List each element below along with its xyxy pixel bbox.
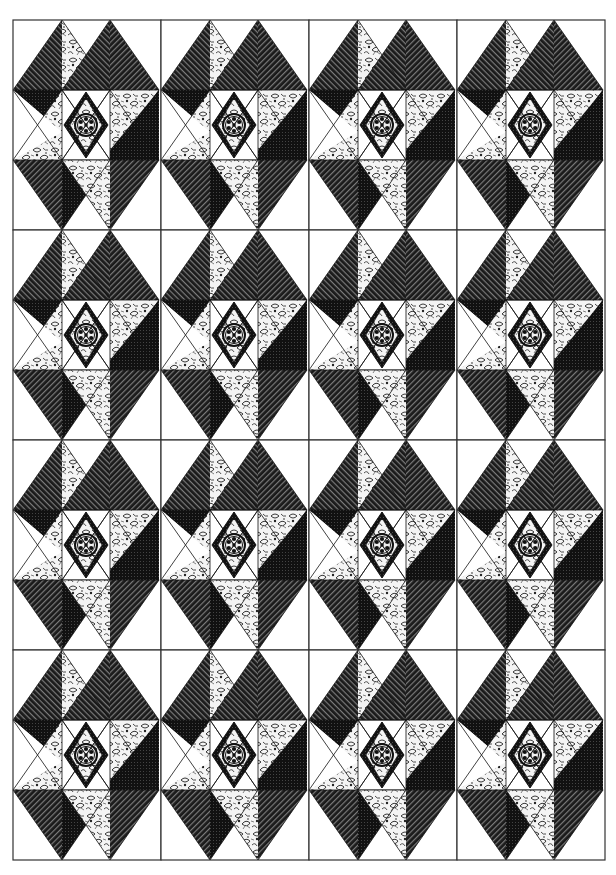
quilt-block [309,440,457,650]
quilt-block [13,650,161,860]
quilt-block [457,440,605,650]
quilt-block [161,230,309,440]
quilt-illustration [0,0,616,875]
quilt-block [457,230,605,440]
quilt-block [309,650,457,860]
quilt-block [457,650,605,860]
quilt-block [161,650,309,860]
quilt-block [309,20,457,230]
quilt-block [13,20,161,230]
quilt-block [161,440,309,650]
quilt-block [457,20,605,230]
quilt-block [161,20,309,230]
quilt-block [309,230,457,440]
quilt-block [13,440,161,650]
quilt-block [13,230,161,440]
